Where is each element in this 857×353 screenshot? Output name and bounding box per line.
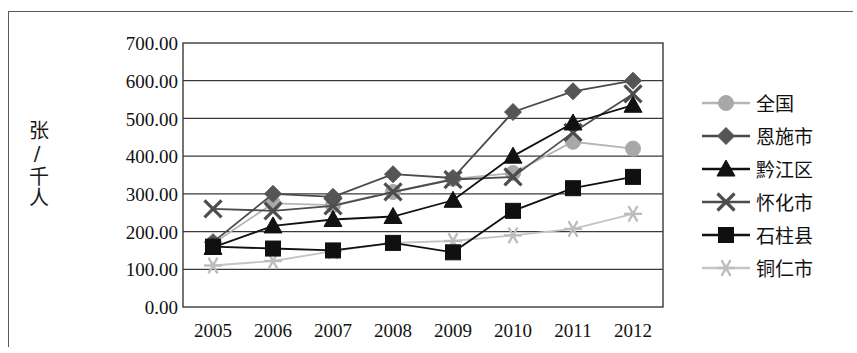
data-point-circle-marker xyxy=(719,95,734,110)
figure-container: 张/千人 700.00 600.00 500.00 400.00 300.00 … xyxy=(0,0,857,353)
data-point-asterisk-marker xyxy=(624,206,642,222)
data-point-square-marker xyxy=(506,203,521,218)
data-point-asterisk-marker xyxy=(504,228,522,244)
data-point-diamond-marker xyxy=(718,127,735,144)
data-point-asterisk-marker xyxy=(717,260,735,276)
legend-sample-canvas xyxy=(700,158,752,180)
data-point-square-marker xyxy=(326,243,341,258)
x-tick-label: 2011 xyxy=(543,320,603,342)
legend-item-2[interactable]: 恩施市 xyxy=(700,119,850,152)
chart-legend: 全国恩施市黔江区怀化市石柱县铜仁市 xyxy=(700,86,850,284)
data-point-asterisk-marker xyxy=(204,258,222,274)
legend-marker-circle-icon xyxy=(700,92,752,114)
x-tick-label: 2010 xyxy=(483,320,543,342)
data-point-asterisk-marker xyxy=(564,221,582,237)
legend-sample-canvas xyxy=(700,191,752,213)
legend-marker-diamond-icon xyxy=(700,125,752,147)
data-point-square-marker xyxy=(719,227,734,242)
legend-item-6[interactable]: 铜仁市 xyxy=(700,251,850,284)
legend-item-3[interactable]: 黔江区 xyxy=(700,152,850,185)
legend-sample-canvas xyxy=(700,125,752,147)
legend-marker-x-icon xyxy=(700,191,752,213)
legend-item-label: 黔江区 xyxy=(756,155,813,182)
data-point-square-marker xyxy=(446,245,461,260)
legend-item-label: 全国 xyxy=(756,89,794,116)
data-point-square-marker xyxy=(266,241,281,256)
data-point-square-marker xyxy=(386,235,401,250)
legend-sample-canvas xyxy=(700,92,752,114)
series-line xyxy=(213,81,633,242)
plot-border xyxy=(183,43,663,307)
legend-item-label: 铜仁市 xyxy=(756,254,813,281)
data-point-triangle-marker xyxy=(504,147,522,163)
data-point-diamond-marker xyxy=(565,83,582,100)
legend-marker-asterisk-icon xyxy=(700,257,752,279)
legend-sample-canvas xyxy=(700,224,752,246)
data-point-circle-marker xyxy=(626,141,641,156)
legend-item-5[interactable]: 石柱县 xyxy=(700,218,850,251)
x-tick-label: 2006 xyxy=(243,320,303,342)
legend-item-label: 石柱县 xyxy=(756,221,813,248)
legend-item-4[interactable]: 怀化市 xyxy=(700,185,850,218)
data-point-square-marker xyxy=(626,169,641,184)
x-tick-label: 2009 xyxy=(423,320,483,342)
x-tick-label: 2007 xyxy=(303,320,363,342)
x-tick-label: 2008 xyxy=(363,320,423,342)
data-point-square-marker xyxy=(566,181,581,196)
legend-marker-triangle-icon xyxy=(700,158,752,180)
x-tick-label: 2012 xyxy=(603,320,663,342)
legend-item-label: 怀化市 xyxy=(756,188,813,215)
line-chart: 张/千人 700.00 600.00 500.00 400.00 300.00 … xyxy=(0,0,857,353)
legend-item-1[interactable]: 全国 xyxy=(700,86,850,119)
legend-item-label: 恩施市 xyxy=(756,122,813,149)
legend-sample-canvas xyxy=(700,257,752,279)
legend-marker-square-icon xyxy=(700,224,752,246)
data-point-diamond-marker xyxy=(385,166,402,183)
x-tick-label: 2005 xyxy=(183,320,243,342)
